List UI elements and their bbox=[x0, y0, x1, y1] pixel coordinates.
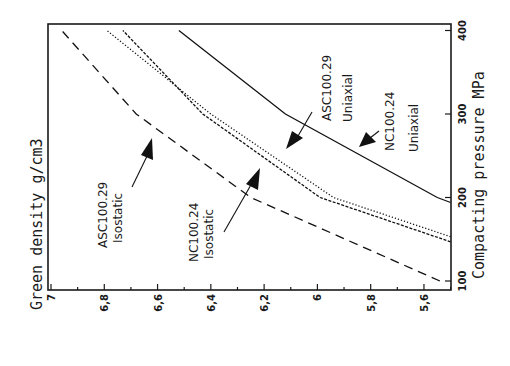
annotation-nc100-24-uniaxial: NC100.24 Uniaxial bbox=[359, 92, 421, 152]
arrowhead-icon bbox=[246, 168, 260, 190]
density-tick-label: 6,6 bbox=[153, 294, 164, 312]
annotation-asc100-29-isostatic: ASC100.29 Isostatic bbox=[96, 138, 153, 248]
y-axis-title: Green density g/cm3 bbox=[28, 138, 46, 310]
x-axis-title: Compacting pressure MPa bbox=[470, 71, 488, 279]
arrowhead-icon bbox=[141, 138, 153, 160]
density-tick-label: 6 bbox=[312, 294, 323, 301]
pressure-tick-label: 200 bbox=[457, 187, 468, 208]
annotation-label-line2: Isostatic bbox=[202, 209, 216, 259]
annotation-label-line2: Uniaxial bbox=[407, 104, 421, 152]
annotation-label-line1: NC100.24 bbox=[187, 203, 201, 262]
density-tick-label: 5,6 bbox=[419, 294, 430, 312]
series-nc100-24-isostatic bbox=[123, 31, 451, 242]
annotation-label-line2: Uniaxial bbox=[341, 74, 355, 122]
density-tick-label: 5,8 bbox=[366, 294, 377, 312]
series-asc100-29-uniaxial bbox=[107, 31, 451, 237]
annotation-asc100-29-uniaxial: ASC100.29 Uniaxial bbox=[286, 55, 355, 149]
annotation-label-line1: ASC100.29 bbox=[96, 182, 110, 248]
plot-frame bbox=[48, 24, 451, 290]
arrowhead-icon bbox=[359, 132, 376, 147]
arrowhead-icon bbox=[286, 131, 303, 149]
annotation-nc100-24-isostatic: NC100.24 Isostatic bbox=[187, 168, 260, 262]
density-axis-ticks: 76,86,66,46,265,85,6 bbox=[46, 284, 451, 312]
pressure-tick-label: 100 bbox=[457, 271, 468, 292]
density-tick-label: 6,8 bbox=[99, 294, 110, 312]
arrow-icon bbox=[370, 131, 379, 138]
density-tick-label: 6,4 bbox=[206, 294, 217, 312]
pressure-tick-label: 400 bbox=[457, 20, 468, 41]
density-tick-label: 6,2 bbox=[259, 294, 270, 312]
annotation-label-line1: NC100.24 bbox=[383, 92, 397, 151]
pressure-tick-label: 300 bbox=[457, 104, 468, 125]
density-tick-label: 7 bbox=[46, 294, 57, 301]
arrow-icon bbox=[298, 112, 312, 136]
annotation-label-line1: ASC100.29 bbox=[320, 55, 334, 121]
green-density-chart: 76,86,66,46,265,85,6 100200300400 Green … bbox=[0, 0, 510, 366]
pressure-axis-ticks: 100200300400 bbox=[445, 20, 468, 291]
annotation-label-line2: Isostatic bbox=[111, 193, 125, 243]
arrow-icon bbox=[224, 183, 252, 232]
